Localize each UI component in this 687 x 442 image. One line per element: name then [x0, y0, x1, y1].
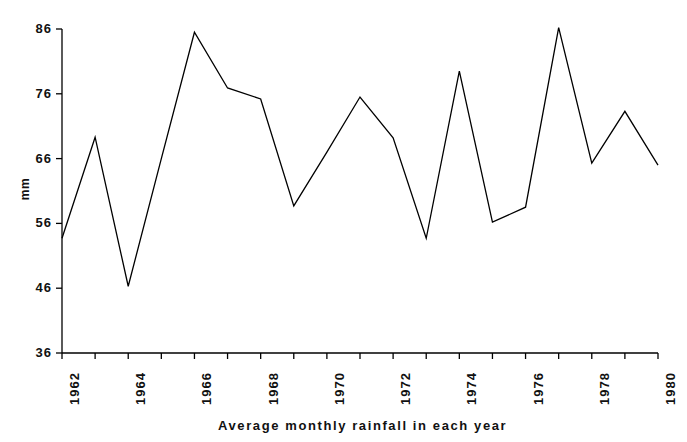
- x-tick-label: 1980: [664, 372, 677, 405]
- y-tick-label: 46: [12, 281, 52, 294]
- x-tick-label: 1972: [399, 372, 412, 405]
- y-tick-label: 66: [12, 152, 52, 165]
- x-tick-label: 1962: [68, 372, 81, 405]
- x-tick-label: 1966: [200, 372, 213, 405]
- x-tick-label: 1968: [267, 372, 280, 405]
- tick-marks: [56, 29, 658, 359]
- rainfall-line-chart: mm 364656667686 196219641966196819701972…: [0, 0, 687, 442]
- y-tick-label: 36: [12, 346, 52, 359]
- x-tick-label: 1970: [333, 372, 346, 405]
- y-tick-label: 86: [12, 22, 52, 35]
- y-axis-title: mm: [19, 176, 31, 202]
- y-tick-label: 76: [12, 87, 52, 100]
- x-tick-label: 1974: [465, 372, 478, 405]
- axes: [62, 29, 658, 353]
- x-tick-label: 1978: [598, 372, 611, 405]
- y-tick-label: 56: [12, 216, 52, 229]
- x-tick-label: 1976: [532, 372, 545, 405]
- x-tick-label: 1964: [134, 372, 147, 405]
- rainfall-data-line: [62, 28, 658, 287]
- chart-title: Average monthly rainfall in each year: [218, 419, 507, 432]
